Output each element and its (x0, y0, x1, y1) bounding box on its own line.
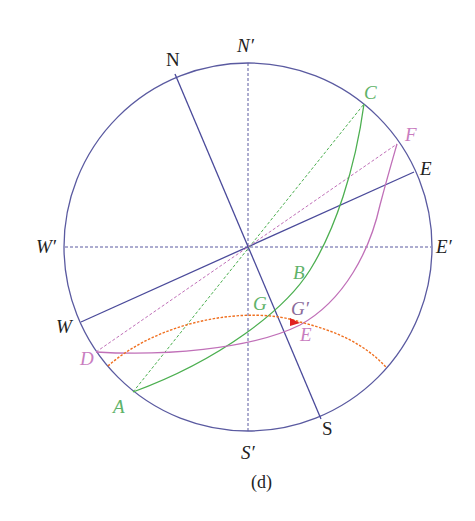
label-w: W (56, 316, 74, 337)
celestial-sphere-diagram: N N′ C F E W′ E′ B G G′ E W D A S S′ (d) (0, 0, 475, 521)
label-s: S (322, 418, 333, 439)
label-f: F (404, 124, 417, 145)
label-a: A (111, 396, 125, 417)
figure-caption: (d) (251, 472, 272, 493)
arc-orange-path (108, 315, 386, 367)
label-g-prime: G′ (291, 298, 310, 319)
label-c: C (364, 82, 377, 103)
label-e-pink: E (299, 324, 312, 345)
label-s-prime: S′ (241, 442, 256, 463)
label-b: B (293, 262, 305, 283)
label-n: N (166, 49, 180, 70)
chord-d-f (96, 144, 397, 352)
label-g: G (253, 293, 267, 314)
label-n-prime: N′ (236, 35, 255, 56)
label-e-prime: E′ (435, 236, 453, 257)
label-w-prime: W′ (36, 236, 57, 257)
label-d: D (79, 348, 94, 369)
label-e: E (419, 158, 432, 179)
direction-arrow-icon (290, 318, 300, 326)
